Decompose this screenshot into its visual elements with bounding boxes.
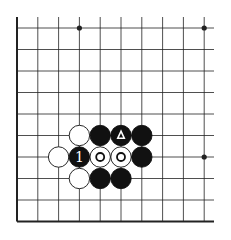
black-stone — [111, 125, 131, 145]
stones: 1 — [48, 125, 152, 188]
stone-body — [48, 147, 68, 167]
go-board: 1 — [0, 0, 231, 240]
black-stone: 1 — [69, 147, 89, 167]
stone-body — [132, 147, 152, 167]
grid-lines — [17, 17, 214, 222]
stone-body — [69, 168, 89, 188]
black-stone — [132, 125, 152, 145]
stone-body — [132, 125, 152, 145]
star-point — [202, 25, 207, 30]
stone-body — [90, 147, 110, 167]
star-point — [77, 25, 82, 30]
stone-body — [69, 125, 89, 145]
black-stone — [90, 168, 110, 188]
white-stone — [90, 147, 110, 167]
stone-body — [111, 147, 131, 167]
black-stone — [111, 168, 131, 188]
black-stone — [90, 125, 110, 145]
white-stone — [69, 168, 89, 188]
white-stone — [111, 147, 131, 167]
stone-body — [90, 125, 110, 145]
stone-body — [90, 168, 110, 188]
stone-body — [111, 168, 131, 188]
stone-body — [111, 125, 131, 145]
white-stone — [69, 125, 89, 145]
white-stone — [48, 147, 68, 167]
move-number-label: 1 — [75, 149, 84, 165]
star-point — [202, 154, 207, 159]
black-stone — [132, 147, 152, 167]
